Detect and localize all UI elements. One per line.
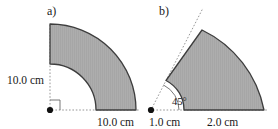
- panel-a-horizontal-dim-label: 10.0 cm: [97, 116, 134, 128]
- panel-a-quarter-annulus: [50, 24, 136, 110]
- panel-a-letter: a): [47, 4, 56, 18]
- panel-a: a) 10.0 cm 10.0 cm: [7, 4, 139, 128]
- panel-b-vertex-dot: [148, 107, 154, 113]
- panel-b-inner-dim-label: 1.0 cm: [149, 116, 180, 128]
- panel-a-center-dot: [47, 107, 53, 113]
- panel-b-angle-label: 45°: [172, 96, 187, 107]
- geometry-figure: a) 10.0 cm 10.0 cm b) 45° 1.0 cm: [0, 0, 278, 129]
- panel-b: b) 45° 1.0 cm 2.0 cm: [148, 4, 268, 128]
- panel-b-letter: b): [159, 4, 169, 18]
- panel-b-outer-dim-label: 2.0 cm: [207, 116, 238, 128]
- figure-canvas: a) 10.0 cm 10.0 cm b) 45° 1.0 cm: [0, 0, 278, 129]
- panel-a-vertical-dim-label: 10.0 cm: [7, 74, 44, 86]
